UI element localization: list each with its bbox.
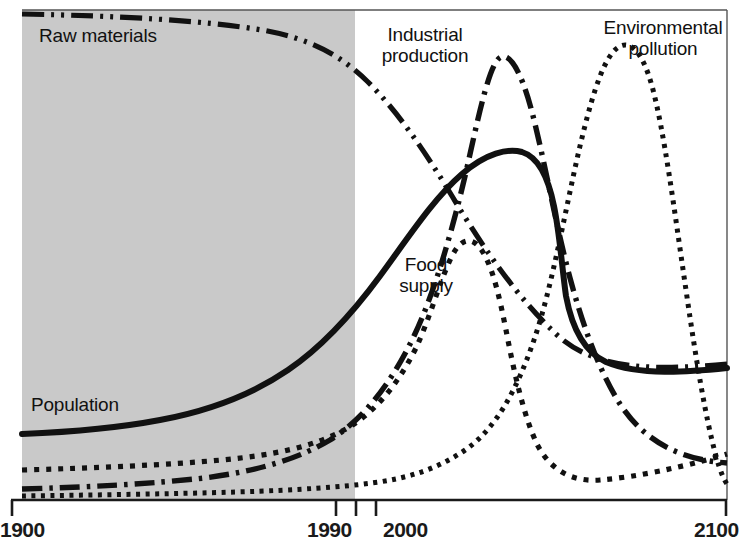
chart-page: 1900 1990 2000 2100 Raw materials Indust… bbox=[0, 0, 748, 548]
x-tick-label-2100: 2100 bbox=[694, 519, 739, 540]
annotation-raw-materials: Raw materials bbox=[39, 26, 157, 47]
x-tick-label-1900: 1900 bbox=[0, 519, 45, 540]
annotation-population: Population bbox=[31, 395, 119, 416]
annotation-environmental-pollution-line2: pollution bbox=[629, 38, 698, 59]
annotation-industrial-production: Industrial production bbox=[362, 25, 488, 66]
annotation-environmental-pollution: Environmental pollution bbox=[592, 18, 734, 59]
annotation-industrial-production-line2: production bbox=[382, 45, 469, 66]
annotation-food-supply-line2: supply bbox=[399, 275, 453, 296]
annotation-food-supply-line1: Food bbox=[405, 254, 448, 275]
annotation-environmental-pollution-line1: Environmental bbox=[604, 17, 723, 38]
world-model-chart bbox=[0, 0, 748, 548]
annotation-food-supply: Food supply bbox=[383, 255, 469, 296]
x-tick-label-1990: 1990 bbox=[307, 519, 352, 540]
x-tick-label-2000: 2000 bbox=[383, 519, 428, 540]
historical-shaded-region bbox=[22, 10, 355, 500]
annotation-industrial-production-line1: Industrial bbox=[387, 24, 462, 45]
